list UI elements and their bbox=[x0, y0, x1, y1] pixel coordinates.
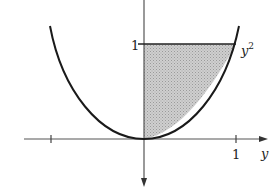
parabola-diagram: 1 1 y y2 bbox=[0, 0, 273, 195]
curve-label: y2 bbox=[240, 41, 254, 58]
horizontal-tick-label: 1 bbox=[232, 147, 240, 162]
curve-label-exponent: 2 bbox=[248, 41, 254, 51]
horizontal-axis-label: y bbox=[260, 146, 269, 161]
horizontal-axis-arrow-icon bbox=[259, 136, 268, 142]
shaded-region bbox=[144, 44, 236, 139]
vertical-tick-label: 1 bbox=[131, 38, 139, 53]
vertical-axis-arrow-icon bbox=[141, 178, 147, 187]
